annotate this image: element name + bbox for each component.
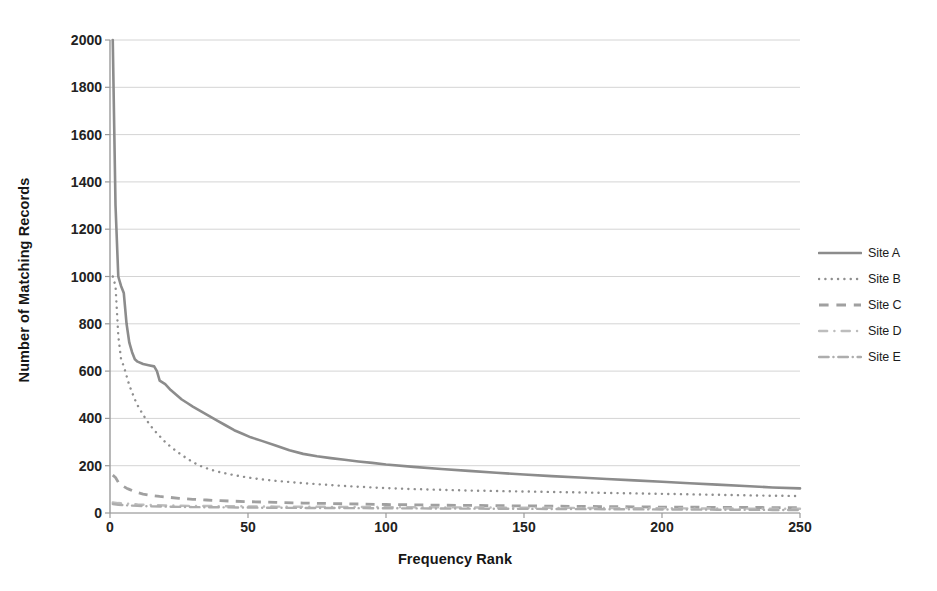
legend-swatch-site-e: [818, 351, 862, 363]
series-line-site-a: [113, 40, 800, 488]
legend-item-site-a[interactable]: Site A: [818, 240, 937, 266]
x-tick-label: 150: [494, 519, 554, 535]
legend-item-site-c[interactable]: Site C: [818, 292, 937, 318]
legend-swatch-site-d: [818, 325, 862, 337]
legend-swatch-site-b: [818, 273, 862, 285]
legend-item-site-d[interactable]: Site D: [818, 318, 937, 344]
legend-label: Site C: [868, 298, 901, 312]
x-tick-label: 200: [632, 519, 692, 535]
chart-legend: Site ASite BSite CSite DSite E: [818, 240, 937, 370]
plot-area: [0, 0, 937, 591]
series-line-site-c: [113, 475, 800, 508]
legend-swatch-site-a: [818, 247, 862, 259]
chart-figure: Number of Matching Records 0200400600800…: [0, 0, 937, 591]
x-tick-label: 250: [770, 519, 830, 535]
legend-label: Site D: [868, 324, 901, 338]
x-tick-label: 50: [218, 519, 278, 535]
series-line-site-b: [113, 277, 800, 496]
legend-label: Site A: [868, 246, 900, 260]
legend-item-site-e[interactable]: Site E: [818, 344, 937, 370]
x-tick-label: 100: [356, 519, 416, 535]
legend-swatch-site-c: [818, 299, 862, 311]
x-tick-label: 0: [80, 519, 140, 535]
legend-label: Site E: [868, 350, 901, 364]
legend-item-site-b[interactable]: Site B: [818, 266, 937, 292]
legend-label: Site B: [868, 272, 901, 286]
x-axis-title: Frequency Rank: [110, 551, 800, 567]
